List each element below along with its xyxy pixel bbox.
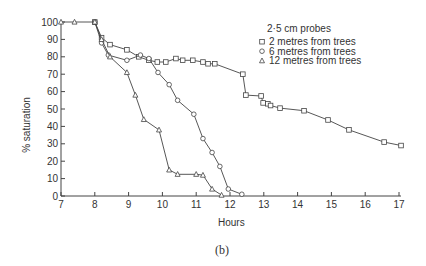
x-tick-label: 16 bbox=[360, 199, 372, 210]
x-tick-label: 11 bbox=[191, 199, 202, 210]
y-tick-label: 100 bbox=[41, 17, 58, 28]
square-marker-icon bbox=[180, 58, 185, 63]
square-marker-icon bbox=[382, 140, 387, 145]
circle-marker-icon bbox=[218, 164, 223, 169]
square-marker-icon bbox=[302, 108, 307, 113]
x-tick-label: 8 bbox=[92, 199, 98, 210]
circle-legend-icon bbox=[260, 49, 265, 54]
square-marker-icon bbox=[347, 128, 352, 133]
circle-marker-icon bbox=[192, 112, 197, 117]
square-marker-icon bbox=[155, 60, 160, 65]
y-tick-label: 40 bbox=[47, 121, 59, 132]
legend-title: 2·5 cm probes bbox=[267, 23, 331, 34]
x-axis-title: Hours bbox=[218, 217, 245, 228]
triangle-marker-icon bbox=[219, 192, 224, 197]
square-marker-icon bbox=[174, 56, 179, 61]
square-marker-icon bbox=[125, 48, 130, 53]
circle-marker-icon bbox=[175, 98, 180, 103]
circle-marker-icon bbox=[125, 58, 130, 63]
square-legend-icon bbox=[260, 39, 265, 44]
square-marker-icon bbox=[268, 103, 273, 108]
circle-marker-icon bbox=[210, 150, 215, 155]
series-line bbox=[61, 22, 222, 195]
y-tick-label: 70 bbox=[47, 69, 59, 80]
x-tick-label: 12 bbox=[224, 199, 236, 210]
y-tick-label: 50 bbox=[47, 104, 59, 115]
series-triangle bbox=[59, 19, 225, 197]
square-marker-icon bbox=[206, 61, 211, 66]
y-tick-label: 30 bbox=[47, 138, 59, 149]
square-marker-icon bbox=[108, 42, 113, 47]
square-marker-icon bbox=[261, 101, 266, 106]
x-tick-label: 14 bbox=[292, 199, 304, 210]
y-tick-label: 20 bbox=[47, 156, 59, 167]
y-tick-label: 10 bbox=[47, 173, 59, 184]
legend-entry: 12 metres from trees bbox=[260, 55, 362, 66]
square-marker-icon bbox=[212, 61, 217, 66]
square-marker-icon bbox=[244, 93, 249, 98]
triangle-marker-icon bbox=[133, 92, 138, 97]
x-tick-label: 10 bbox=[157, 199, 169, 210]
square-marker-icon bbox=[259, 94, 264, 99]
legend: 2·5 cm probes 2 metres from trees6 metre… bbox=[260, 23, 362, 66]
saturation-line-chart: 7891011121314151617010203040506070809010… bbox=[0, 0, 426, 266]
x-tick-label: 9 bbox=[126, 199, 132, 210]
triangle-legend-icon bbox=[260, 58, 265, 63]
circle-marker-icon bbox=[240, 192, 245, 197]
circle-marker-icon bbox=[156, 70, 161, 75]
y-tick-label: 90 bbox=[47, 34, 59, 45]
circle-marker-icon bbox=[167, 82, 172, 87]
figure-caption: (b) bbox=[215, 243, 229, 257]
triangle-marker-icon bbox=[167, 167, 172, 172]
square-marker-icon bbox=[278, 106, 283, 111]
y-axis-title: % saturation bbox=[21, 97, 32, 153]
triangle-marker-icon bbox=[157, 127, 162, 132]
x-tick-label: 15 bbox=[326, 199, 338, 210]
square-marker-icon bbox=[191, 58, 196, 63]
x-tick-label: 13 bbox=[258, 199, 270, 210]
circle-marker-icon bbox=[201, 136, 206, 141]
circle-marker-icon bbox=[226, 187, 231, 192]
series-square bbox=[93, 20, 404, 148]
square-marker-icon bbox=[201, 60, 206, 65]
square-marker-icon bbox=[399, 143, 404, 148]
circle-marker-icon bbox=[147, 56, 152, 61]
square-marker-icon bbox=[241, 72, 246, 77]
square-marker-icon bbox=[163, 60, 168, 65]
y-tick-label: 80 bbox=[47, 51, 59, 62]
triangle-marker-icon bbox=[141, 117, 146, 122]
square-marker-icon bbox=[326, 118, 331, 123]
y-tick-label: 0 bbox=[52, 191, 58, 202]
legend-label: 12 metres from trees bbox=[269, 55, 361, 66]
x-tick-label: 17 bbox=[393, 199, 405, 210]
y-tick-label: 60 bbox=[47, 86, 59, 97]
x-tick-label: 7 bbox=[58, 199, 64, 210]
circle-marker-icon bbox=[138, 53, 143, 58]
